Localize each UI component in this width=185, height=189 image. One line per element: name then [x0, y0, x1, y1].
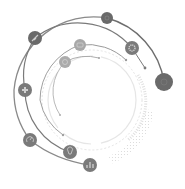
- node-left[interactable]: [18, 83, 32, 97]
- node-bottom[interactable]: [63, 145, 77, 159]
- orbit-diagram-svg: [0, 0, 185, 189]
- faint-rings: [42, 50, 150, 160]
- node-far-right[interactable]: [155, 73, 173, 91]
- node-inner-a[interactable]: [74, 39, 86, 51]
- orbit-diagram: [0, 0, 185, 189]
- node-upper-left[interactable]: [28, 31, 42, 45]
- node-top[interactable]: [101, 12, 113, 24]
- node-gear[interactable]: [125, 41, 139, 55]
- node-inner-b[interactable]: [59, 56, 71, 68]
- node-lower-left[interactable]: [23, 133, 37, 147]
- node-bottom-right[interactable]: [83, 158, 97, 172]
